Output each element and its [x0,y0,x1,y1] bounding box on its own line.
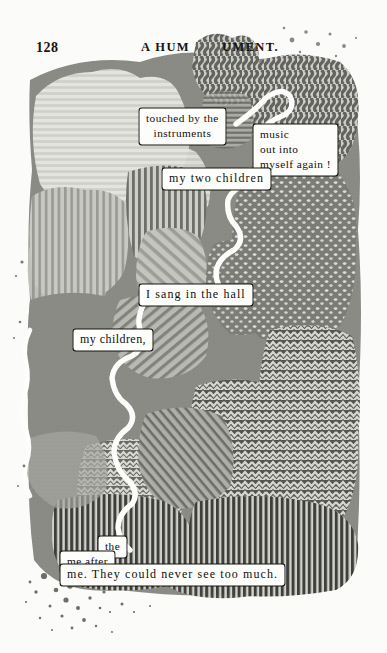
text-line: touched by the [146,111,219,126]
text-line: the [105,540,120,552]
text-line: out into [260,142,331,157]
text-line: me. They could never see too much. [67,567,278,581]
text-line: myself again ! [260,157,331,172]
text-line: I sang in the hall [146,287,246,301]
text-line: my children, [80,332,146,346]
running-head-left: A HUM [141,40,190,55]
text-window-two-children: my two children [164,170,269,188]
speckle-top-right [269,27,358,58]
text-line: instruments [146,126,219,141]
running-head-right: UMENT. [222,40,279,55]
humument-page: 128 A HUM UMENT. touched by the instrume… [0,0,387,653]
text-window-touched: touched by the instruments [141,110,224,143]
text-window-never-see-too-much: me. They could never see too much. [62,566,283,584]
text-window-music: music out into myself again ! [255,126,336,174]
text-window-sang: I sang in the hall [141,286,251,304]
patch-diagonal-lowcenter [138,407,234,508]
text-line: my two children [169,171,264,185]
collage-artwork [0,0,387,653]
page-folio: 128 [36,40,59,56]
text-line: music [260,127,331,142]
text-window-my-children: my children, [75,331,151,349]
